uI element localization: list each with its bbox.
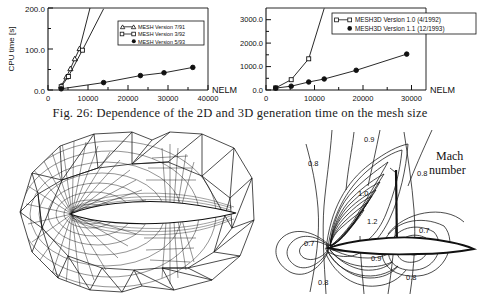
mesh-plot-2d-airfoil — [2, 128, 270, 296]
y-tick-label-2000: 2000.0 — [240, 39, 263, 48]
y-tick-label-3000: 3000.0 — [240, 15, 263, 24]
figure-caption: Fig. 26: Dependence of the 2D and 3D gen… — [0, 106, 480, 126]
series-mesh3d-1-1 — [273, 52, 409, 91]
x-tick-label-20000: 20000 — [118, 94, 139, 103]
y-tick-label-0: 0.0 — [34, 87, 46, 96]
y-axis-ticks — [48, 8, 53, 90]
x-tick-label-30000: 30000 — [158, 94, 179, 103]
legend-label-0: MESH Version 7/91 — [138, 24, 185, 30]
airfoil-body — [70, 202, 236, 224]
series-mesh-7-91 — [59, 8, 90, 88]
x-tick-label-30000: 30000 — [401, 94, 422, 103]
contour-plot-mach-number: 0.8 0.9 1.0 1.2 0.8 0.7 0.7 0.9 0.8 0.8 … — [268, 128, 480, 296]
y-tick-label-0: 0.0 — [253, 86, 263, 95]
contour-label-2: 1.0 — [358, 189, 368, 198]
x-tick-label-10000: 10000 — [78, 94, 99, 103]
contour-labels: 0.8 0.9 1.0 1.2 0.8 0.7 0.7 0.9 0.8 0.8 — [304, 135, 429, 287]
x-tick-label-20000: 20000 — [353, 94, 374, 103]
y-axis-ticks — [266, 20, 271, 90]
contour-label-6: 0.7 — [419, 226, 429, 235]
chart-legend: MESH Version 7/91 MESH Version 3/92 MESH… — [118, 21, 204, 45]
contour-label-5: 0.7 — [304, 239, 314, 248]
x-axis-label: NELM — [430, 85, 455, 95]
x-axis-ticks — [266, 85, 412, 90]
mach-number-label-line1: Mach — [436, 149, 463, 163]
legend-label-2: MESH Version 5/93 — [138, 39, 185, 45]
chart-3d-generation-time: 3000.0 2000.0 1000.0 0.0 0 10000 20000 3… — [240, 0, 480, 108]
legend-marker-filled-circle — [347, 26, 352, 31]
legend-label-1: MESH3D Version 1.1 (12/1993) — [355, 25, 445, 33]
chart-2d-generation-time: 200.0 100.0 0.0 0 10000 20000 30000 4000… — [0, 0, 240, 108]
series-mesh-5-93 — [59, 65, 195, 91]
y-tick-label-200: 200.0 — [25, 5, 46, 14]
contour-label-1: 0.9 — [364, 135, 374, 144]
figure-26: 200.0 100.0 0.0 0 10000 20000 30000 4000… — [0, 0, 480, 296]
series-mesh3d-1-0 — [274, 8, 325, 90]
y-tick-label-100: 100.0 — [25, 46, 46, 55]
airfoil-body — [328, 237, 474, 254]
y-tick-label-1000: 1000.0 — [240, 62, 263, 71]
contour-label-7: 0.9 — [371, 254, 381, 263]
x-tick-label-10000: 10000 — [304, 94, 325, 103]
x-tick-label-0: 0 — [46, 94, 50, 103]
legend-marker-filled-circle — [132, 39, 136, 43]
mach-number-label-line2: number — [429, 163, 466, 177]
contour-label-9: 0.8 — [406, 273, 416, 282]
contour-label-3: 1.2 — [367, 217, 377, 226]
x-tick-label-0: 0 — [264, 94, 268, 103]
legend-label-0: MESH3D Version 1.0 (4/1992) — [355, 16, 441, 24]
contour-label-0: 0.8 — [308, 159, 318, 168]
x-tick-label-40000: 40000 — [198, 94, 219, 103]
y-axis-label: CPU time [s] — [7, 27, 16, 72]
x-axis-label: NELM — [212, 85, 237, 95]
chart-legend: MESH3D Version 1.0 (4/1992) MESH3D Versi… — [332, 13, 476, 34]
contour-label-8: 0.8 — [318, 278, 328, 287]
contour-label-4: 0.8 — [417, 169, 427, 178]
legend-label-1: MESH Version 3/92 — [138, 31, 185, 37]
